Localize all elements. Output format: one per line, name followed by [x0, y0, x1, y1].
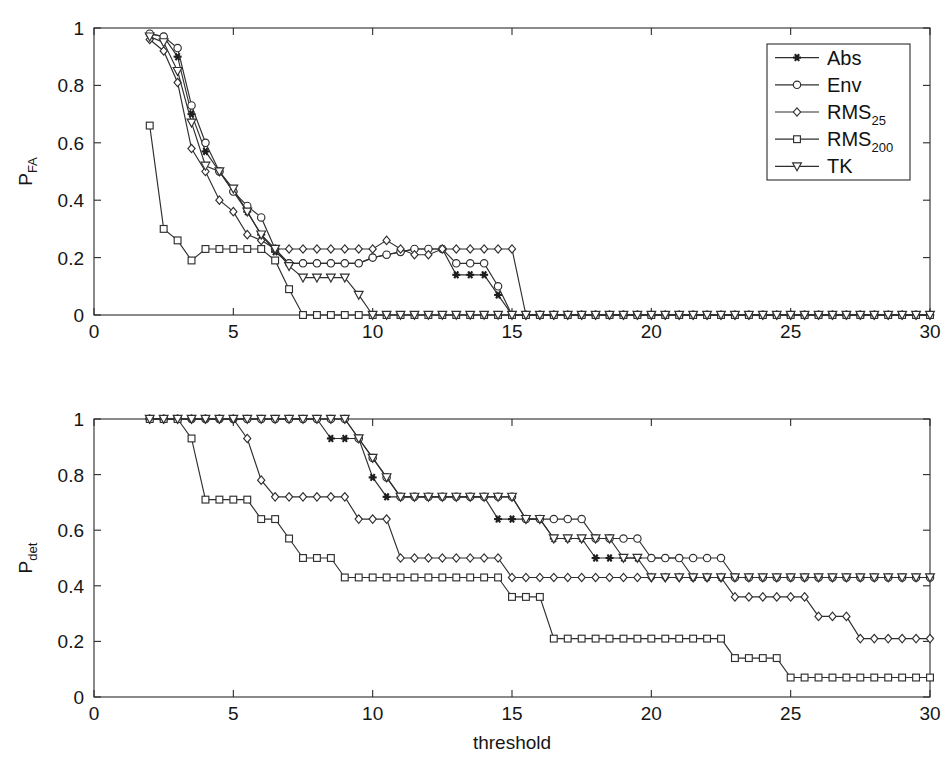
- marker-diamond: [843, 612, 850, 620]
- marker-diamond: [773, 593, 780, 601]
- marker-square: [690, 635, 697, 642]
- marker-square: [927, 674, 934, 681]
- x-tick-label: 25: [780, 321, 801, 342]
- marker-square: [857, 674, 864, 681]
- marker-diamond: [453, 245, 460, 253]
- x-tick-label: 10: [362, 703, 383, 724]
- marker-circle: [299, 260, 306, 267]
- marker-diamond: [369, 515, 376, 523]
- marker-square: [439, 574, 446, 581]
- marker-star: [480, 271, 488, 278]
- marker-circle: [793, 81, 800, 88]
- marker-square: [787, 674, 794, 681]
- marker-square: [341, 574, 348, 581]
- star-core: [496, 293, 500, 297]
- marker-diamond: [606, 573, 613, 581]
- marker-square: [327, 555, 334, 562]
- series-rms200: [146, 416, 933, 681]
- y-tick-label: 0.2: [58, 248, 84, 269]
- marker-square: [300, 555, 307, 562]
- series-line: [150, 419, 930, 577]
- marker-square: [300, 312, 307, 319]
- series-tk: [145, 415, 934, 581]
- marker-square: [244, 246, 251, 253]
- x-tick-label: 15: [501, 321, 522, 342]
- x-tick-label: 0: [89, 703, 100, 724]
- marker-circle: [202, 139, 209, 146]
- y-tick-label: 0.8: [58, 465, 84, 486]
- marker-square: [314, 555, 321, 562]
- marker-square: [453, 574, 460, 581]
- marker-circle: [188, 102, 195, 109]
- marker-square: [801, 674, 808, 681]
- series-line: [150, 419, 930, 678]
- marker-circle: [634, 535, 641, 542]
- marker-circle: [620, 535, 627, 542]
- marker-diamond: [313, 493, 320, 501]
- marker-star: [383, 493, 391, 500]
- y-tick-label: 1: [73, 409, 84, 430]
- legend-label: TK: [827, 155, 853, 177]
- marker-star: [494, 516, 502, 523]
- marker-square: [704, 635, 711, 642]
- y-axis-title: Pdet: [15, 542, 40, 573]
- y-tick-label: 0.4: [58, 576, 85, 597]
- marker-square: [202, 246, 209, 253]
- x-tick-label: 30: [919, 703, 940, 724]
- marker-diamond: [467, 554, 474, 562]
- marker-triangle-down: [354, 291, 363, 299]
- x-tick-label: 5: [228, 321, 239, 342]
- x-axis: 051015202530: [89, 419, 941, 724]
- x-tick-label: 20: [641, 703, 662, 724]
- marker-square: [286, 286, 293, 293]
- marker-square: [794, 136, 801, 143]
- marker-diamond: [787, 593, 794, 601]
- marker-circle: [689, 554, 696, 561]
- marker-diamond: [285, 493, 292, 501]
- marker-square: [913, 674, 920, 681]
- marker-star: [369, 474, 377, 481]
- marker-diamond: [871, 634, 878, 642]
- x-tick-label: 5: [228, 703, 239, 724]
- marker-square: [564, 635, 571, 642]
- marker-square: [495, 574, 502, 581]
- marker-square: [174, 237, 181, 244]
- marker-square: [216, 246, 223, 253]
- marker-square: [202, 496, 209, 503]
- marker-square: [592, 635, 599, 642]
- marker-star: [606, 555, 614, 562]
- marker-square: [160, 226, 167, 233]
- series-abs: [146, 416, 934, 581]
- marker-diamond: [508, 245, 515, 253]
- marker-star: [341, 435, 349, 442]
- marker-square: [411, 574, 418, 581]
- star-core: [204, 150, 208, 154]
- marker-diamond: [481, 554, 488, 562]
- marker-circle: [327, 260, 334, 267]
- y-tick-label: 0.4: [58, 190, 85, 211]
- marker-diamond: [885, 634, 892, 642]
- marker-diamond: [397, 554, 404, 562]
- marker-diamond: [285, 245, 292, 253]
- star-core: [468, 273, 472, 277]
- marker-diamond: [299, 493, 306, 501]
- marker-square: [258, 516, 265, 523]
- x-tick-label: 25: [780, 703, 801, 724]
- figure-canvas: 05101520253000.20.40.60.81PFA05101520253…: [0, 0, 952, 763]
- marker-square: [216, 496, 223, 503]
- marker-diamond: [634, 573, 641, 581]
- x-tick-label: 30: [919, 321, 940, 342]
- marker-square: [815, 674, 822, 681]
- star-core: [190, 112, 194, 116]
- marker-diamond: [522, 573, 529, 581]
- marker-circle: [564, 515, 571, 522]
- marker-square: [314, 312, 321, 319]
- star-core: [510, 517, 514, 521]
- marker-circle: [717, 554, 724, 561]
- star-core: [482, 273, 486, 277]
- legend-label-sub: 25: [871, 113, 885, 128]
- marker-circle: [453, 260, 460, 267]
- marker-diamond: [745, 593, 752, 601]
- marker-diamond: [592, 573, 599, 581]
- y-axis-title-sub: FA: [25, 157, 40, 173]
